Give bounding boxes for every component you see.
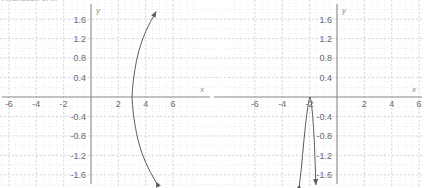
svg-text:6: 6 [417, 99, 422, 109]
svg-text:-1.2: -1.2 [316, 151, 332, 161]
curve-path [299, 97, 315, 185]
svg-text:x: x [411, 85, 417, 94]
svg-text:0.4: 0.4 [73, 73, 86, 83]
right-graph-plot: -6-4-22461.61.20.80.4-0.4-0.8-1.2-1.6xy [212, 0, 424, 188]
svg-text:4: 4 [143, 99, 148, 109]
svg-text:-0.4: -0.4 [316, 112, 332, 122]
svg-text:2: 2 [362, 99, 367, 109]
svg-text:1.6: 1.6 [319, 15, 332, 25]
graph-page: A function of x. -6-4-22461.61.20.80.4-0… [0, 0, 424, 188]
svg-text:0.4: 0.4 [319, 73, 332, 83]
svg-text:-4: -4 [32, 99, 40, 109]
svg-text:-2: -2 [60, 99, 68, 109]
svg-text:-6: -6 [251, 99, 259, 109]
svg-text:-6: -6 [5, 99, 13, 109]
svg-text:4: 4 [389, 99, 394, 109]
svg-text:y: y [95, 6, 101, 15]
right-graph-panel: -6-4-22461.61.20.80.4-0.4-0.8-1.2-1.6xy [212, 0, 424, 188]
svg-text:1.2: 1.2 [319, 34, 332, 44]
svg-text:-1.6: -1.6 [70, 170, 86, 180]
svg-text:1.2: 1.2 [73, 34, 86, 44]
svg-text:1.6: 1.6 [73, 15, 86, 25]
svg-text:-2: -2 [306, 99, 314, 109]
left-graph-panel: -6-4-22461.61.20.80.4-0.4-0.8-1.2-1.6xy [0, 0, 212, 188]
svg-text:x: x [199, 85, 205, 94]
svg-text:2: 2 [116, 99, 121, 109]
svg-text:-0.8: -0.8 [70, 131, 86, 141]
svg-text:0.8: 0.8 [319, 53, 332, 63]
svg-text:-0.4: -0.4 [70, 112, 86, 122]
svg-text:0.8: 0.8 [73, 53, 86, 63]
left-graph-plot: -6-4-22461.61.20.80.4-0.4-0.8-1.2-1.6xy [0, 0, 212, 188]
svg-text:y: y [341, 6, 347, 15]
svg-text:-0.8: -0.8 [316, 131, 332, 141]
svg-text:-1.2: -1.2 [70, 151, 86, 161]
svg-text:6: 6 [171, 99, 176, 109]
svg-text:-4: -4 [278, 99, 286, 109]
svg-text:-1.6: -1.6 [316, 170, 332, 180]
